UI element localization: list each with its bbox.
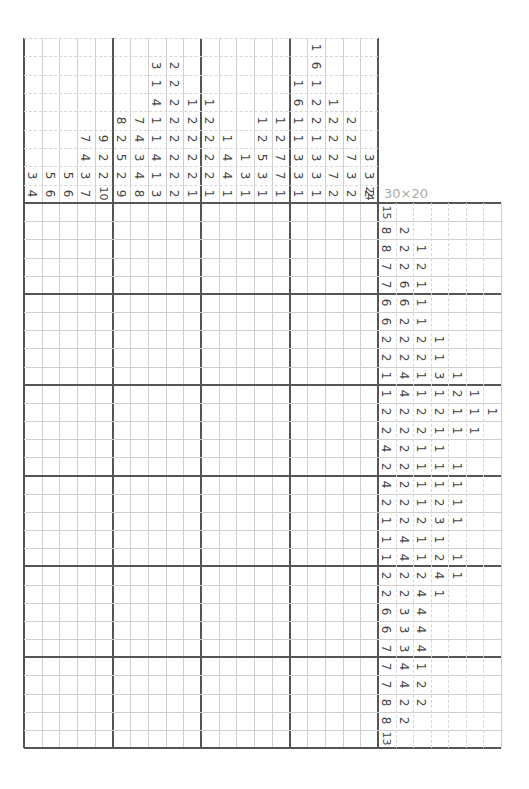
puzzle-cell[interactable] xyxy=(148,439,166,457)
puzzle-cell[interactable] xyxy=(254,294,272,312)
puzzle-cell[interactable] xyxy=(130,276,148,294)
puzzle-cell[interactable] xyxy=(166,512,184,530)
puzzle-cell[interactable] xyxy=(24,457,42,475)
puzzle-cell[interactable] xyxy=(113,385,131,403)
puzzle-cell[interactable] xyxy=(95,221,113,239)
puzzle-cell[interactable] xyxy=(130,712,148,730)
puzzle-cell[interactable] xyxy=(325,330,343,348)
puzzle-cell[interactable] xyxy=(95,585,113,603)
puzzle-cell[interactable] xyxy=(201,276,219,294)
puzzle-cell[interactable] xyxy=(42,603,60,621)
puzzle-cell[interactable] xyxy=(254,221,272,239)
puzzle-cell[interactable] xyxy=(77,421,95,439)
puzzle-cell[interactable] xyxy=(343,512,361,530)
puzzle-cell[interactable] xyxy=(201,385,219,403)
puzzle-cell[interactable] xyxy=(290,276,308,294)
puzzle-cell[interactable] xyxy=(290,585,308,603)
puzzle-cell[interactable] xyxy=(201,712,219,730)
puzzle-cell[interactable] xyxy=(77,530,95,548)
puzzle-cell[interactable] xyxy=(307,294,325,312)
puzzle-cell[interactable] xyxy=(42,348,60,366)
puzzle-cell[interactable] xyxy=(95,566,113,584)
puzzle-cell[interactable] xyxy=(59,712,77,730)
puzzle-cell[interactable] xyxy=(24,276,42,294)
puzzle-cell[interactable] xyxy=(325,312,343,330)
puzzle-cell[interactable] xyxy=(272,621,290,639)
puzzle-cell[interactable] xyxy=(219,312,237,330)
puzzle-cell[interactable] xyxy=(307,675,325,693)
puzzle-cell[interactable] xyxy=(113,494,131,512)
puzzle-cell[interactable] xyxy=(201,421,219,439)
puzzle-cell[interactable] xyxy=(113,403,131,421)
puzzle-cell[interactable] xyxy=(95,294,113,312)
puzzle-cell[interactable] xyxy=(325,421,343,439)
puzzle-cell[interactable] xyxy=(236,258,254,276)
puzzle-cell[interactable] xyxy=(325,639,343,657)
puzzle-cell[interactable] xyxy=(343,203,361,221)
puzzle-cell[interactable] xyxy=(166,712,184,730)
puzzle-cell[interactable] xyxy=(130,421,148,439)
puzzle-cell[interactable] xyxy=(166,566,184,584)
puzzle-cell[interactable] xyxy=(307,239,325,257)
puzzle-cell[interactable] xyxy=(272,694,290,712)
puzzle-cell[interactable] xyxy=(254,312,272,330)
puzzle-cell[interactable] xyxy=(59,239,77,257)
puzzle-cell[interactable] xyxy=(42,439,60,457)
puzzle-cell[interactable] xyxy=(272,367,290,385)
puzzle-cell[interactable] xyxy=(254,276,272,294)
puzzle-cell[interactable] xyxy=(42,530,60,548)
puzzle-cell[interactable] xyxy=(113,621,131,639)
puzzle-cell[interactable] xyxy=(183,348,201,366)
puzzle-cell[interactable] xyxy=(77,657,95,675)
puzzle-cell[interactable] xyxy=(42,694,60,712)
puzzle-cell[interactable] xyxy=(219,476,237,494)
puzzle-cell[interactable] xyxy=(113,294,131,312)
puzzle-cell[interactable] xyxy=(325,730,343,748)
puzzle-cell[interactable] xyxy=(113,730,131,748)
puzzle-cell[interactable] xyxy=(201,239,219,257)
puzzle-cell[interactable] xyxy=(95,348,113,366)
puzzle-cell[interactable] xyxy=(236,566,254,584)
puzzle-cell[interactable] xyxy=(290,712,308,730)
puzzle-cell[interactable] xyxy=(343,221,361,239)
puzzle-cell[interactable] xyxy=(183,566,201,584)
puzzle-cell[interactable] xyxy=(236,530,254,548)
puzzle-cell[interactable] xyxy=(24,203,42,221)
puzzle-cell[interactable] xyxy=(201,603,219,621)
puzzle-cell[interactable] xyxy=(113,712,131,730)
puzzle-cell[interactable] xyxy=(307,457,325,475)
puzzle-cell[interactable] xyxy=(166,367,184,385)
puzzle-cell[interactable] xyxy=(360,730,378,748)
puzzle-cell[interactable] xyxy=(113,512,131,530)
puzzle-cell[interactable] xyxy=(343,603,361,621)
puzzle-cell[interactable] xyxy=(219,585,237,603)
puzzle-cell[interactable] xyxy=(307,639,325,657)
puzzle-cell[interactable] xyxy=(24,657,42,675)
puzzle-cell[interactable] xyxy=(201,675,219,693)
puzzle-cell[interactable] xyxy=(219,730,237,748)
puzzle-cell[interactable] xyxy=(130,730,148,748)
puzzle-cell[interactable] xyxy=(77,403,95,421)
puzzle-cell[interactable] xyxy=(219,239,237,257)
puzzle-cell[interactable] xyxy=(130,530,148,548)
puzzle-cell[interactable] xyxy=(113,421,131,439)
puzzle-cell[interactable] xyxy=(343,548,361,566)
puzzle-cell[interactable] xyxy=(130,348,148,366)
puzzle-cell[interactable] xyxy=(148,603,166,621)
puzzle-cell[interactable] xyxy=(183,294,201,312)
puzzle-cell[interactable] xyxy=(59,694,77,712)
puzzle-cell[interactable] xyxy=(77,548,95,566)
puzzle-cell[interactable] xyxy=(77,294,95,312)
puzzle-cell[interactable] xyxy=(272,348,290,366)
puzzle-cell[interactable] xyxy=(236,457,254,475)
puzzle-cell[interactable] xyxy=(360,476,378,494)
puzzle-cell[interactable] xyxy=(166,239,184,257)
puzzle-cell[interactable] xyxy=(166,421,184,439)
puzzle-cell[interactable] xyxy=(236,657,254,675)
puzzle-cell[interactable] xyxy=(307,657,325,675)
puzzle-cell[interactable] xyxy=(360,657,378,675)
puzzle-cell[interactable] xyxy=(325,512,343,530)
puzzle-cell[interactable] xyxy=(290,730,308,748)
puzzle-cell[interactable] xyxy=(148,657,166,675)
puzzle-cell[interactable] xyxy=(360,203,378,221)
